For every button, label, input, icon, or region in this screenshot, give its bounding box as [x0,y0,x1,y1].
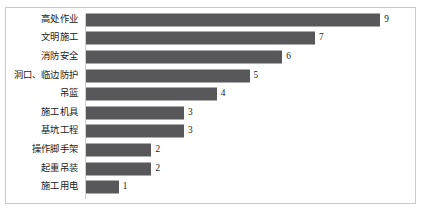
category-label: 吊篮 [60,89,78,98]
bar-row: 起重吊装2 [6,159,415,178]
bar-row: 吊篮4 [6,85,415,104]
bar [86,181,119,194]
bar-row: 操作脚手架2 [6,141,415,160]
category-label: 施工用电 [41,182,78,191]
bar-value-label: 6 [286,52,291,61]
bar-value-label: 3 [188,108,193,117]
bar-value-label: 4 [221,89,226,98]
bar-value-label: 5 [254,71,259,80]
bar-row: 消防安全6 [6,48,415,67]
bar [86,50,282,63]
bar-row: 文明施工7 [6,29,415,48]
bar [86,106,184,119]
category-label: 高处作业 [41,15,78,24]
bar-row: 高处作业9 [6,11,415,30]
bar [86,143,151,156]
bar-value-label: 1 [123,182,128,191]
bar [86,32,315,45]
category-label: 洞口、临边防护 [14,71,78,80]
bar [86,13,380,26]
bar-chart-figure: 高处作业9文明施工7消防安全6洞口、临边防护5吊篮4施工机具3基坑工程3操作脚手… [5,7,416,204]
category-label: 起重吊装 [41,164,78,173]
bar [86,69,250,82]
category-label: 基坑工程 [41,127,78,136]
bar-value-label: 7 [319,34,324,43]
bar-row: 洞口、临边防护5 [6,66,415,85]
category-label: 消防安全 [41,52,78,61]
category-label: 文明施工 [41,34,78,43]
bar [86,162,151,175]
bar-row: 基坑工程3 [6,122,415,141]
bar-value-label: 3 [188,127,193,136]
bar-value-label: 2 [155,164,160,173]
bar-row: 施工机具3 [6,104,415,123]
category-label: 操作脚手架 [32,145,78,154]
bar [86,125,184,138]
category-label: 施工机具 [41,108,78,117]
bar-value-label: 9 [384,15,389,24]
bar [86,88,217,101]
plot-area: 高处作业9文明施工7消防安全6洞口、临边防护5吊篮4施工机具3基坑工程3操作脚手… [6,8,415,203]
bar-row: 施工用电1 [6,178,415,197]
bar-value-label: 2 [155,145,160,154]
